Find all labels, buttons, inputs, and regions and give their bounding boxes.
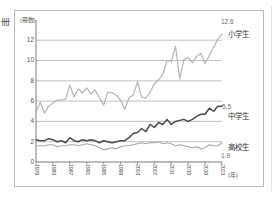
x-tick-label: 1995 <box>101 164 107 175</box>
x-tick-label: 2023 <box>219 164 225 175</box>
value-label-high: 1.9 <box>221 153 230 160</box>
x-tick-label: 1991 <box>84 164 90 175</box>
y-tick-label: 4 <box>30 118 34 125</box>
x-tick-label: 2003 <box>135 164 141 175</box>
value-label-junior: 5.5 <box>222 104 231 111</box>
page-rule-divider <box>271 6 272 191</box>
y-axis-ticks: 024681012 <box>18 22 34 166</box>
x-axis-unit-label: (年) <box>228 170 238 179</box>
axis-lines <box>36 20 222 165</box>
gridlines <box>36 40 222 141</box>
y-tick-label: 2 <box>30 139 34 146</box>
value-label-elementary: 12.6 <box>221 19 234 26</box>
series-label-junior: 中学生 <box>228 113 249 121</box>
x-tick-label: 1999 <box>118 164 124 175</box>
x-tick-label: 2007 <box>152 164 158 175</box>
series-label-high: 高校生 <box>228 144 249 152</box>
x-tick-label: 2011 <box>168 164 174 174</box>
chart-figure: 冊 (冊数) 024681012 19791983198719911995199… <box>0 0 278 197</box>
page-edge-glyph: 冊 <box>1 18 13 27</box>
x-axis-ticks: 1979198319871991199519992003200720112015… <box>36 164 226 190</box>
x-tick-label: 2015 <box>185 164 191 175</box>
plot-area <box>36 26 222 162</box>
y-tick-label: 6 <box>30 98 34 105</box>
y-tick-label: 10 <box>27 57 34 64</box>
x-tick-label: 1979 <box>33 164 39 175</box>
series-label-elementary: 小学生 <box>228 31 249 39</box>
series-line-high <box>36 142 222 150</box>
x-tick-label: 1987 <box>67 164 73 175</box>
y-tick-label: 12 <box>27 37 34 44</box>
series-line-junior <box>36 106 222 143</box>
y-tick-label: 8 <box>30 78 34 85</box>
x-tick-label: 1983 <box>50 164 56 175</box>
series-lines <box>36 34 222 150</box>
plot-svg <box>36 26 222 162</box>
x-tick-label: 2019 <box>202 164 208 175</box>
